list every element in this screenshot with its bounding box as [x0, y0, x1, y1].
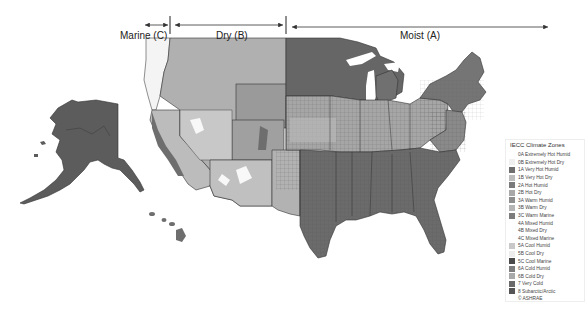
legend-swatch	[509, 251, 515, 257]
legend-item-3c: 3C Warm Marine	[509, 212, 581, 220]
legend-swatch	[509, 273, 515, 279]
contiguous-us	[144, 38, 486, 258]
legend-swatch	[509, 205, 515, 211]
legend-swatch	[509, 197, 515, 203]
legend-swatch	[509, 235, 515, 241]
legend-swatch	[509, 243, 515, 249]
legend-swatch	[509, 266, 515, 272]
legend-item-4c: 4C Mixed Marine	[509, 235, 581, 243]
legend-swatch	[509, 213, 515, 219]
legend-item-5b: 5B Cool Dry	[509, 250, 581, 258]
legend-item-6b: 6B Cold Dry	[509, 273, 581, 281]
us-map	[0, 0, 588, 310]
legend-item-4a: 4A Mixed Humid	[509, 219, 581, 227]
legend-item-8: 8 Subarctic/Arctic	[509, 288, 581, 296]
legend-swatch	[509, 182, 515, 188]
legend-swatch	[509, 167, 515, 173]
climate-zone-legend: IECC Climate Zones 0A Extremely Hot Humi…	[505, 139, 585, 302]
legend-item-1a: 1A Very Hot Humid	[509, 166, 581, 174]
legend-swatch	[509, 228, 515, 234]
legend-item-7: 7 Very Cold	[509, 280, 581, 288]
legend-item-3b: 3B Warm Dry	[509, 204, 581, 212]
region-label-dry: Dry (B)	[216, 30, 248, 41]
legend-swatch	[509, 288, 515, 294]
legend-item-2b: 2B Hot Dry	[509, 189, 581, 197]
legend-item-3a: 3A Warm Humid	[509, 197, 581, 205]
legend-swatch	[509, 190, 515, 196]
legend-swatch	[509, 152, 515, 158]
legend-swatch	[509, 220, 515, 226]
legend-swatch	[509, 159, 515, 165]
legend-item-5a: 5A Cool Humid	[509, 242, 581, 250]
hawaii	[149, 212, 186, 242]
legend-item-0b: 0B Extremely Hot Dry	[509, 159, 581, 167]
region-label-moist: Moist (A)	[400, 30, 440, 41]
legend-title: IECC Climate Zones	[510, 142, 581, 148]
alaska	[20, 100, 144, 204]
legend-item-4b: 4B Mixed Dry	[509, 227, 581, 235]
legend-swatch	[509, 281, 515, 287]
legend-swatch	[509, 258, 515, 264]
legend-item-2a: 2A Hot Humid	[509, 181, 581, 189]
legend-item-1b: 1B Very Hot Dry	[509, 174, 581, 182]
region-label-marine: Marine (C)	[120, 30, 167, 41]
legend-swatch	[509, 175, 515, 181]
climate-zone-map-figure: Marine (C) Dry (B) Moist (A) IECC Climat…	[0, 0, 588, 310]
legend-item-0a: 0A Extremely Hot Humid	[509, 151, 581, 159]
legend-credit: © ASHRAE	[518, 296, 581, 301]
region-dividers	[145, 16, 548, 34]
legend-item-5c: 5C Cool Marine	[509, 257, 581, 265]
legend-item-6a: 6A Cold Humid	[509, 265, 581, 273]
